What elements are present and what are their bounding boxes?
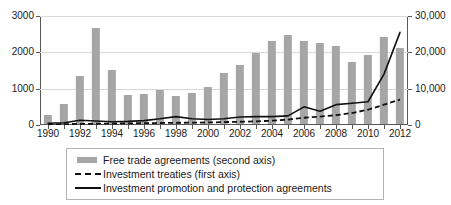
x-axis-tick <box>352 125 353 129</box>
left-axis-tick-label: 0 <box>28 120 34 130</box>
x-axis-tick-label: 2000 <box>197 129 219 139</box>
legend-label-free-trade-agreements: Free trade agreements (second axis) <box>103 154 275 166</box>
right-axis-tick-label: 20,000 <box>415 47 446 57</box>
x-axis-tick-label: 1998 <box>165 129 187 139</box>
x-axis-tick <box>96 125 97 129</box>
line-series-overlay <box>40 16 408 125</box>
right-axis-tick <box>408 16 412 17</box>
x-axis-tick <box>128 125 129 129</box>
right-axis-tick <box>408 125 412 126</box>
chart-figure: 0100020003000 010,00020,00030,000 199019… <box>0 0 451 205</box>
left-axis-tick-label: 1000 <box>12 84 34 94</box>
legend-label-investment-promotion-agreements: Investment promotion and protection agre… <box>103 182 332 194</box>
x-axis-tick <box>224 125 225 129</box>
x-axis-tick-label: 2012 <box>389 129 411 139</box>
left-axis-tick-label: 3000 <box>12 11 34 21</box>
right-axis-tick-label: 0 <box>415 120 421 130</box>
right-axis-tick-label: 10,000 <box>415 84 446 94</box>
x-axis-tick <box>256 125 257 129</box>
x-axis-tick-label: 1996 <box>133 129 155 139</box>
chart-legend: Free trade agreements (second axis) Inve… <box>66 148 384 200</box>
x-axis-tick <box>384 125 385 129</box>
x-axis-tick-label: 1992 <box>69 129 91 139</box>
x-axis-tick-label: 1994 <box>101 129 123 139</box>
x-axis-tick-label: 2010 <box>357 129 379 139</box>
legend-item-investment-promotion-agreements[interactable]: Investment promotion and protection agre… <box>75 181 377 195</box>
right-axis-tick <box>408 52 412 53</box>
x-axis-tick-label: 2006 <box>293 129 315 139</box>
dashed-line-swatch-icon <box>75 168 103 180</box>
x-axis-tick <box>288 125 289 129</box>
legend-label-investment-treaties: Investment treaties (first axis) <box>103 168 240 180</box>
x-axis-tick-label: 2004 <box>261 129 283 139</box>
left-axis-tick <box>36 125 40 126</box>
x-axis-tick <box>64 125 65 129</box>
x-axis-tick <box>320 125 321 129</box>
plot-area: 0100020003000 010,00020,00030,000 199019… <box>40 16 408 125</box>
x-axis-tick <box>192 125 193 129</box>
x-axis-tick-label: 2002 <box>229 129 251 139</box>
solid-line-swatch-icon <box>75 182 103 194</box>
x-axis-tick <box>160 125 161 129</box>
legend-item-investment-treaties[interactable]: Investment treaties (first axis) <box>75 167 377 181</box>
x-axis-tick-label: 2008 <box>325 129 347 139</box>
right-axis-tick-label: 30,000 <box>415 11 446 21</box>
bar-swatch-icon <box>75 154 103 166</box>
x-axis-tick-label: 1990 <box>37 129 59 139</box>
line-investment-promotion-and-protection-agreements <box>48 32 400 123</box>
right-axis-tick <box>408 89 412 90</box>
legend-item-free-trade-agreements[interactable]: Free trade agreements (second axis) <box>75 153 377 167</box>
left-axis-tick-label: 2000 <box>12 47 34 57</box>
